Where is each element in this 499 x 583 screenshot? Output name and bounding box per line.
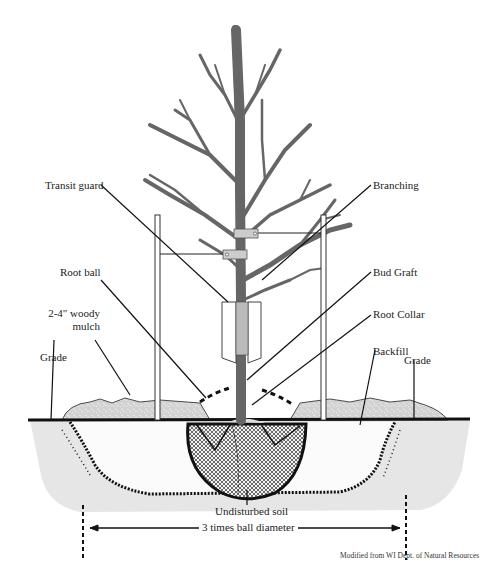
label-mulch-line2: mulch bbox=[44, 320, 100, 333]
label-bud-graft: Bud Graft bbox=[373, 266, 417, 279]
label-grade-right: Grade bbox=[404, 354, 431, 367]
label-grade-left: Grade bbox=[40, 351, 67, 364]
label-root-collar: Root Collar bbox=[373, 308, 425, 321]
label-mulch: 2-4" woody mulch bbox=[44, 307, 100, 333]
label-branching: Branching bbox=[373, 179, 419, 192]
mulch-layer bbox=[62, 398, 448, 420]
credit-text: Modified from WI Dept. of Natural Resour… bbox=[340, 551, 479, 560]
tree-planting-illustration bbox=[0, 0, 499, 583]
label-undisturbed-soil: Undisturbed soil bbox=[215, 505, 288, 518]
label-dimension: 3 times ball diameter bbox=[199, 521, 298, 533]
label-mulch-line1: 2-4" woody bbox=[44, 307, 100, 320]
label-root-ball: Root ball bbox=[60, 266, 101, 279]
transit-guard bbox=[222, 302, 261, 363]
label-transit-guard: Transit guard bbox=[45, 179, 104, 192]
